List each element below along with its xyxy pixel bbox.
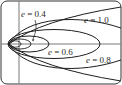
label-eq: =: [88, 15, 98, 25]
label-eq: =: [25, 9, 35, 19]
label-eq: =: [52, 47, 62, 57]
label-eq: =: [90, 55, 100, 65]
label-e-0-4: e = 0.4: [21, 10, 46, 19]
label-value: 1.0: [98, 15, 109, 25]
conic-eccentricity-diagram: [0, 0, 122, 85]
label-value: 0.6: [62, 47, 73, 57]
label-e-0-6: e = 0.6: [48, 48, 73, 57]
label-e-0-8: e = 0.8: [86, 56, 111, 65]
label-e-1-0: e = 1.0: [84, 16, 109, 25]
label-value: 0.8: [100, 55, 111, 65]
label-value: 0.4: [35, 9, 46, 19]
